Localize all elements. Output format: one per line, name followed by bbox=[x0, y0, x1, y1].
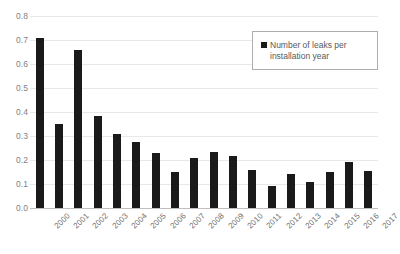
bar bbox=[113, 134, 121, 208]
y-axis-tick-label: 0.8 bbox=[2, 12, 28, 21]
legend-label: Number of leaks per installation year bbox=[270, 40, 371, 62]
bar bbox=[287, 174, 295, 208]
x-axis-tick-label: 2010 bbox=[246, 212, 265, 231]
y-axis-tick-label: 0.6 bbox=[2, 60, 28, 69]
y-axis-tick-label: 0.0 bbox=[2, 204, 28, 213]
x-axis-tick-label: 2013 bbox=[304, 212, 323, 231]
x-axis-tick-label: 2002 bbox=[92, 212, 111, 231]
bar bbox=[152, 153, 160, 208]
x-axis-tick-label: 2004 bbox=[130, 212, 149, 231]
legend-entry: Number of leaks per installation year bbox=[261, 40, 371, 62]
y-axis-tick-label: 0.1 bbox=[2, 180, 28, 189]
y-axis-tick-label: 0.7 bbox=[2, 36, 28, 45]
bar bbox=[36, 38, 44, 208]
bar bbox=[268, 186, 276, 208]
bar bbox=[74, 50, 82, 208]
x-axis-tick-label: 2012 bbox=[285, 212, 304, 231]
x-axis-tick-label: 2009 bbox=[227, 212, 246, 231]
x-axis-tick-label: 2015 bbox=[343, 212, 362, 231]
legend: Number of leaks per installation year bbox=[252, 31, 378, 70]
x-axis-tick-label: 2003 bbox=[111, 212, 130, 231]
bar bbox=[171, 172, 179, 208]
x-axis-tick-label: 2008 bbox=[208, 212, 227, 231]
x-axis-tick-label: 2005 bbox=[150, 212, 169, 231]
x-axis-tick-label: 2007 bbox=[188, 212, 207, 231]
y-axis: 0.80.70.60.50.40.30.20.10.0 bbox=[0, 0, 28, 254]
x-axis-tick-label: 2011 bbox=[265, 212, 283, 230]
x-axis-tick-label: 2017 bbox=[382, 212, 400, 231]
x-axis-tick-label: 2014 bbox=[324, 212, 343, 231]
bar bbox=[132, 142, 140, 208]
x-axis: 2000200120022003200420052006200720082009… bbox=[30, 208, 378, 254]
y-axis-tick-label: 0.2 bbox=[2, 156, 28, 165]
bar bbox=[326, 172, 334, 208]
x-axis-tick-label: 2006 bbox=[169, 212, 188, 231]
y-axis-tick-label: 0.4 bbox=[2, 108, 28, 117]
x-axis-tick-label: 2001 bbox=[72, 212, 91, 231]
bar bbox=[190, 158, 198, 208]
bar bbox=[306, 182, 314, 208]
x-axis-tick-label: 2016 bbox=[362, 212, 381, 231]
legend-square-marker-icon bbox=[261, 42, 267, 48]
bar bbox=[210, 152, 218, 208]
bar bbox=[345, 162, 353, 208]
bar bbox=[364, 171, 372, 208]
bar bbox=[248, 170, 256, 208]
bar bbox=[55, 124, 63, 208]
y-axis-tick-label: 0.3 bbox=[2, 132, 28, 141]
bar bbox=[229, 156, 237, 208]
x-axis-tick-label: 2000 bbox=[53, 212, 72, 231]
bar bbox=[94, 116, 102, 208]
y-axis-tick-label: 0.5 bbox=[2, 84, 28, 93]
